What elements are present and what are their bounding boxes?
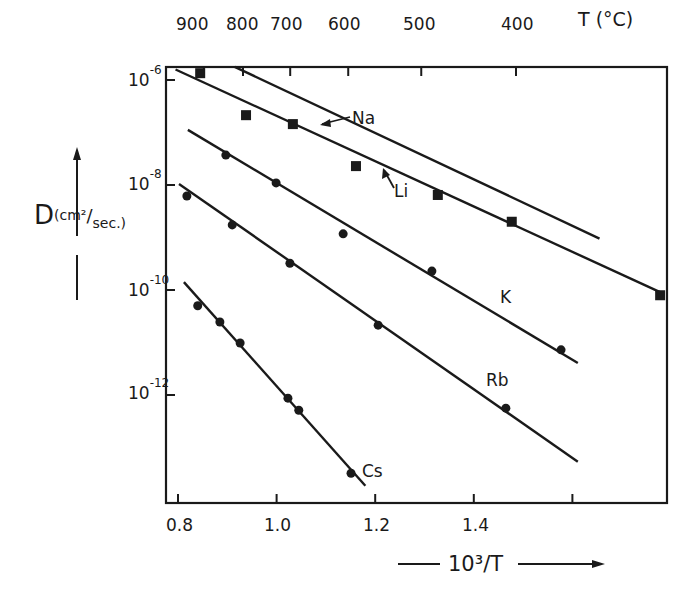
y-tick-1e-6: 10-6 bbox=[128, 70, 162, 90]
x-tick-1.4: 1.4 bbox=[462, 515, 489, 535]
top-tick-600: 600 bbox=[328, 14, 360, 34]
top-tick-900: 900 bbox=[176, 14, 208, 34]
y-title-unit-denominator: sec.) bbox=[93, 215, 127, 231]
x-tick-1.2: 1.2 bbox=[363, 515, 390, 535]
circle-marker-cs bbox=[236, 339, 245, 348]
circle-marker-cs bbox=[283, 394, 292, 403]
square-marker-li bbox=[507, 217, 517, 227]
top-axis-title: T (°C) bbox=[578, 8, 633, 30]
y-tick-1e-12: 10-12 bbox=[128, 383, 169, 403]
series-label-cs: Cs bbox=[362, 461, 383, 481]
plot-border bbox=[166, 67, 667, 503]
x-axis-title: 10³/T bbox=[448, 552, 503, 576]
top-tick-500: 500 bbox=[403, 14, 435, 34]
x-axis-arrowhead-icon bbox=[592, 560, 605, 568]
na-pointer-arrowhead-icon bbox=[320, 119, 331, 127]
diffusion-arrhenius-chart bbox=[0, 0, 697, 605]
circle-marker-cs bbox=[294, 406, 303, 415]
y-axis-title: D(cm²/sec.) bbox=[34, 200, 126, 230]
series-label-li: Li bbox=[394, 181, 408, 201]
plot-frame bbox=[166, 67, 667, 503]
top-tick-800: 800 bbox=[226, 14, 258, 34]
square-marker-li bbox=[195, 68, 205, 78]
fit-line-li bbox=[176, 70, 662, 293]
square-marker-li bbox=[241, 110, 251, 120]
circle-marker-rb bbox=[228, 220, 237, 229]
y-tick-exp: -6 bbox=[150, 63, 162, 77]
top-tick-400: 400 bbox=[501, 14, 533, 34]
y-tick-base: 10 bbox=[128, 174, 150, 194]
circle-marker-rb bbox=[374, 321, 383, 330]
y-tick-base: 10 bbox=[128, 383, 150, 403]
y-title-slash: / bbox=[86, 205, 92, 226]
y-tick-1e-10: 10-10 bbox=[128, 280, 169, 300]
x-tick-1.0: 1.0 bbox=[264, 515, 291, 535]
series-label-rb: Rb bbox=[486, 370, 509, 390]
circle-marker-k bbox=[221, 151, 230, 160]
circle-marker-cs bbox=[347, 469, 356, 478]
circle-marker-rb bbox=[182, 192, 191, 201]
square-marker-li bbox=[655, 290, 665, 300]
square-marker-li bbox=[433, 190, 443, 200]
y-tick-exp: -10 bbox=[150, 273, 170, 287]
series-label-k: K bbox=[500, 287, 511, 307]
fit-line-na bbox=[235, 67, 600, 239]
circle-marker-rb bbox=[501, 404, 510, 413]
circle-marker-k bbox=[557, 345, 566, 354]
circle-marker-cs bbox=[215, 318, 224, 327]
y-title-unit-numerator: (cm² bbox=[54, 207, 86, 223]
y-tick-exp: -8 bbox=[150, 167, 162, 181]
square-marker-li bbox=[351, 161, 361, 171]
y-title-symbol: D bbox=[34, 200, 54, 230]
y-tick-exp: -12 bbox=[150, 376, 170, 390]
y-axis-arrowhead-icon bbox=[73, 147, 81, 160]
series-label-na: Na bbox=[352, 108, 375, 128]
x-tick-0.8: 0.8 bbox=[166, 515, 193, 535]
circle-marker-k bbox=[427, 267, 436, 276]
top-tick-700: 700 bbox=[270, 14, 302, 34]
circle-marker-k bbox=[339, 229, 348, 238]
circle-marker-cs bbox=[193, 301, 202, 310]
data-points bbox=[182, 68, 665, 478]
y-tick-base: 10 bbox=[128, 70, 150, 90]
circle-marker-rb bbox=[285, 259, 294, 268]
circle-marker-k bbox=[272, 178, 281, 187]
fit-line-cs bbox=[184, 282, 365, 486]
fit-lines bbox=[176, 67, 662, 486]
square-marker-li bbox=[288, 119, 298, 129]
y-tick-base: 10 bbox=[128, 280, 150, 300]
y-tick-1e-8: 10-8 bbox=[128, 174, 162, 194]
